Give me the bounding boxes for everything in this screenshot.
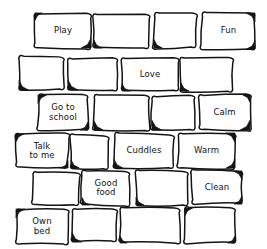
brick	[199, 94, 252, 131]
brick	[191, 169, 243, 204]
brick	[150, 95, 195, 130]
brick	[184, 207, 236, 244]
brick	[15, 133, 70, 168]
brick-wall-diagram: PlayFunLoveGo to schoolCalmTalk to meCud…	[0, 0, 267, 249]
brick	[32, 172, 81, 206]
brick	[135, 170, 188, 206]
brick	[70, 134, 109, 169]
brick	[180, 57, 234, 92]
brick	[80, 170, 130, 206]
brick	[37, 94, 89, 131]
brick	[119, 207, 181, 244]
brick	[153, 12, 198, 49]
brick-wall-canvas	[0, 0, 267, 249]
brick	[19, 56, 64, 91]
brick	[34, 13, 91, 50]
brick	[93, 95, 150, 132]
brick	[177, 133, 236, 169]
brick	[16, 209, 69, 245]
brick	[200, 12, 255, 50]
brick	[68, 58, 118, 91]
brick	[93, 14, 150, 49]
brick	[71, 209, 117, 242]
brick	[121, 58, 179, 91]
brick	[113, 132, 174, 168]
